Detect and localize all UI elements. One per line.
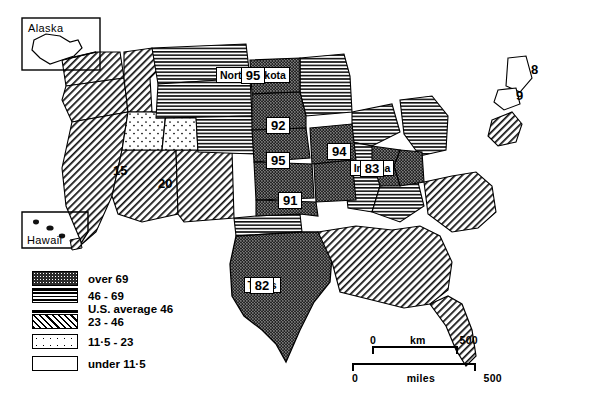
scale-miles-end: 500 [484, 372, 502, 384]
scale-miles-tick-right [474, 363, 476, 371]
state-value-kansas: 91 [278, 192, 302, 209]
scale-km-end: 500 [460, 334, 478, 346]
legend-swatch-23-46 [32, 314, 78, 329]
legend-label-46-69: 46 - 69 [88, 290, 124, 302]
scale-miles-bar [352, 363, 476, 371]
legend-label-us-average: U.S. average 46 [88, 303, 173, 315]
legend-swatch-over-69 [32, 271, 78, 286]
state-value-south-dakota: 92 [266, 117, 290, 134]
legend-label-over-69: over 69 [88, 273, 128, 285]
choropleth-map-figure: Alaska Hawaii North Dakota 95 92 95 94 I… [0, 0, 589, 393]
legend-label-23-46: 23 - 46 [88, 316, 124, 328]
state-value-texas: 82 [250, 277, 274, 294]
legend-label-11-23: 11·5 - 23 [88, 336, 133, 348]
scale-km-start: 0 [370, 334, 376, 346]
scale-km-unit: km [410, 334, 426, 346]
inset-title-hawaii: Hawaii [27, 234, 62, 246]
legend-label-under-11-5: under 11·5 [88, 358, 146, 370]
map-scale-bars: 0 km 500 0 miles 500 [352, 334, 502, 384]
legend-item-46-69: 46 - 69 [32, 289, 173, 302]
legend-swatch-46-69 [32, 288, 78, 303]
scale-miles-unit: miles [407, 372, 435, 384]
state-value-connecticut: 9 [516, 88, 523, 103]
state-value-vermont: 8 [531, 62, 538, 77]
state-value-nebraska: 95 [266, 152, 290, 169]
scale-miles-start: 0 [352, 372, 358, 384]
legend-item-over-69: over 69 [32, 270, 173, 287]
scale-miles-labels: 0 miles 500 [352, 372, 502, 384]
legend-item-11-23: 11·5 - 23 [32, 333, 173, 350]
inset-title-alaska: Alaska [28, 22, 63, 34]
scale-km-tick-right [456, 346, 458, 354]
legend-swatch-11-23 [32, 334, 78, 349]
state-value-nevada: 15 [113, 163, 127, 178]
scale-km-labels: 0 km 500 [370, 334, 478, 346]
state-value-utah: 20 [158, 176, 172, 191]
map-legend: over 69 46 - 69 U.S. average 46 23 - 46 … [32, 270, 173, 374]
scale-km-bar [372, 346, 458, 354]
legend-swatch-under-11-5 [32, 356, 78, 371]
state-value-north-dakota: 95 [241, 67, 265, 84]
state-value-indiana: 83 [360, 160, 384, 177]
legend-item-23-46: 23 - 46 [32, 315, 173, 328]
legend-item-under-11-5: under 11·5 [32, 355, 173, 372]
legend-swatch-us-average [32, 310, 78, 313]
state-value-iowa: 94 [327, 143, 351, 160]
